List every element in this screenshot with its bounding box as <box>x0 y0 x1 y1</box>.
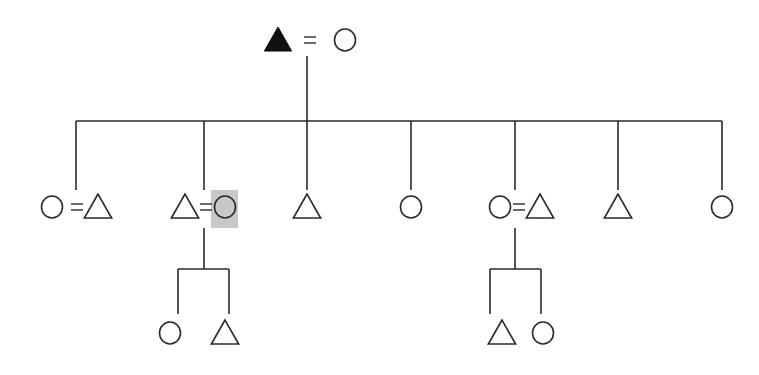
circle-icon <box>712 196 733 218</box>
filled-triangle-icon <box>264 27 291 51</box>
circle-icon <box>490 196 511 218</box>
triangle-icon <box>604 194 631 218</box>
circle-icon <box>335 29 356 51</box>
triangle-icon <box>526 194 553 218</box>
triangle-icon <box>84 194 111 218</box>
circle-icon <box>160 322 181 344</box>
kinship-diagram <box>0 0 759 375</box>
triangle-icon <box>293 194 320 218</box>
triangle-icon <box>211 320 238 344</box>
triangle-icon <box>171 194 198 218</box>
circle-icon <box>401 196 422 218</box>
circle-icon <box>42 196 63 218</box>
circle-icon <box>533 322 554 344</box>
triangle-icon <box>488 320 515 344</box>
